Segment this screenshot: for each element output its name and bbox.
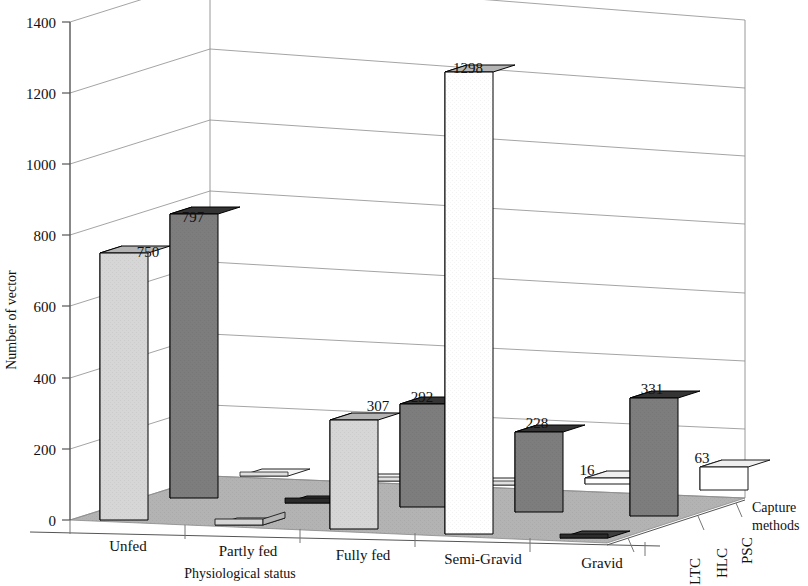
- bar-gravid-psc: [700, 460, 770, 490]
- bar-chart-3d: 1400 1200 1000 800 600 400 200 0 Number …: [0, 0, 808, 586]
- value-label-gravid-psc: 63: [695, 450, 710, 466]
- y-tick-1400: 1400: [26, 15, 56, 31]
- y-axis-ticks: [62, 22, 70, 520]
- value-label-semigravid-ltc: 1298: [453, 60, 483, 76]
- y-tick-1000: 1000: [26, 157, 56, 173]
- x-cat-semi-gravid: Semi-Gravid: [444, 551, 522, 567]
- y-tick-200: 200: [34, 442, 57, 458]
- z-axis-label-line1: Capture: [752, 500, 796, 515]
- value-label-semigravid-psc: 16: [580, 462, 596, 478]
- z-cat-psc: PSC: [739, 537, 755, 564]
- y-axis-label: Number of vector: [4, 270, 19, 370]
- x-cat-gravid: Gravid: [581, 555, 623, 571]
- z-cat-ltc: LTC: [687, 558, 703, 585]
- value-label-gravid-hlc: 331: [641, 381, 664, 397]
- z-cat-hlc: HLC: [714, 548, 730, 578]
- y-tick-800: 800: [34, 228, 57, 244]
- y-tick-0: 0: [49, 513, 57, 529]
- x-cat-fully-fed: Fully fed: [336, 547, 391, 563]
- y-tick-600: 600: [34, 299, 57, 315]
- z-axis-label-line2: methods: [752, 518, 799, 533]
- x-axis-label: Physiological status: [184, 566, 296, 581]
- value-label-unfed-hlc: 797: [182, 209, 205, 225]
- value-label-fullyfed-ltc: 307: [367, 398, 390, 414]
- value-label-fullyfed-hlc: 292: [411, 389, 434, 405]
- value-label-semigravid-hlc: 228: [526, 415, 549, 431]
- y-tick-1200: 1200: [26, 86, 56, 102]
- chart-root: 1400 1200 1000 800 600 400 200 0 Number …: [0, 0, 808, 586]
- y-tick-400: 400: [34, 371, 57, 387]
- x-cat-unfed: Unfed: [109, 538, 147, 554]
- x-cat-partly-fed: Partly fed: [219, 543, 278, 559]
- value-label-unfed-ltc: 750: [137, 244, 160, 260]
